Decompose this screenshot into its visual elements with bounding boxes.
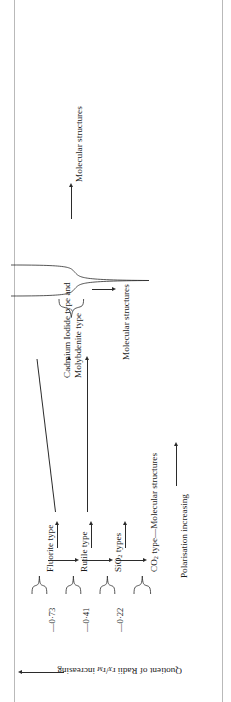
grouped-label-line1: Cadmium Iodide type and [62,282,73,378]
radii-axis-label: Quotient of Radii rX/rM increasing [57,666,182,676]
radii-axis-sub-x: X [108,666,112,673]
ratio-073-text: —0·73 [47,608,57,632]
ratio-041-text: —0·41 [81,608,91,632]
grouped-to-molecular-lower-arrow-icon [112,287,116,291]
figure-canvas: Quotient of Radii rX/rM increasing —0·73… [0,0,231,702]
ratio-value-073: —0·73 [48,608,57,632]
polarisation-axis-rule [176,446,177,486]
chain-arrow-sio2-to-co2 [116,560,144,561]
ratio-value-022: —0·22 [116,608,125,632]
brace-group-1 [31,575,48,594]
chain-arrow-1-head-icon [75,558,79,562]
grouped-structure-label: Cadmium Iodide type and Molybdenite type [62,282,84,378]
structure-arrow-3-line [125,525,126,548]
chain-arrow-rutile-to-sio2 [82,560,110,561]
molecular-structures-upper-text: Molecular structures [74,106,84,182]
radii-axis-mid: /r [103,666,109,676]
structure-sio2-sub: 2 [116,555,123,558]
grouped-to-molecular-lower-line [92,289,113,290]
chain-arrow-2-head-icon [109,558,113,562]
brace-apex-arrow-icon [69,183,73,187]
structure-arrow-1-head-icon [55,521,59,525]
riser-fluorite [36,359,55,512]
structure-co2-post: type—Molecular structures [149,453,159,556]
brace-group-3 [99,575,116,594]
structure-arrow-2-head-icon [89,521,93,525]
molecular-structures-upper: Molecular structures [75,106,85,182]
structure-rutile-text: Rutile type [79,531,89,572]
molecular-structures-lower-text: Molecular structures [121,284,131,360]
radii-axis-tail: increasing [57,666,97,676]
brace-apex-riser [71,187,72,219]
polarisation-axis-label: Polarisation increasing [180,494,190,578]
chain-arrow-3-head-icon [143,558,147,562]
structure-label-fluorite: Fluorite type [46,525,56,572]
chain-arrow-fluorite-to-rutile [48,560,76,561]
structure-arrow-3-head-icon [123,521,127,525]
grouped-label-line2: Molybdenite type [73,282,84,378]
structure-arrow-1-line [57,525,58,548]
radii-axis-rule [22,672,64,673]
structure-sio2-post: types [113,533,123,555]
riser-rutile [87,360,88,512]
ratio-022-text: —0·22 [115,608,125,632]
brace-group-4 [133,575,152,594]
structure-label-rutile: Rutile type [80,531,90,572]
structure-fluorite-text: Fluorite type [45,525,55,572]
structure-label-sio2: SiO2 types [114,533,124,572]
structure-co2-pre: CO [149,559,159,572]
polarisation-axis-arrow-up-icon [174,442,178,446]
structure-label-co2: CO2 type—Molecular structures [150,453,160,572]
structure-arrow-2-line [91,525,92,548]
radii-axis-text: Quotient of Radii r [112,666,182,676]
polarisation-axis-text: Polarisation increasing [179,494,189,578]
structure-co2-sub: 2 [152,556,159,559]
riser-rutile-arrow-icon [85,356,89,360]
molecular-structures-lower: Molecular structures [122,284,132,360]
radii-axis-arrow-left-icon [18,670,22,674]
brace-group-2 [65,575,82,594]
ratio-value-041: —0·41 [82,608,91,632]
radii-axis-sub-m: M [97,666,102,673]
